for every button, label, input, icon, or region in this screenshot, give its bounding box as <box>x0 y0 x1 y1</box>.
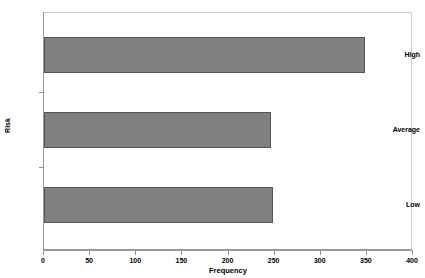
x-axis-tick <box>274 251 275 255</box>
x-axis-tick-label: 400 <box>397 257 425 264</box>
x-axis-tick <box>412 251 413 255</box>
y-axis-tick <box>39 167 44 168</box>
x-axis-tick-label: 50 <box>74 257 104 264</box>
bar-low[interactable] <box>44 187 273 223</box>
y-category-label-average: Average <box>384 126 420 133</box>
x-axis-tick-label: 250 <box>259 257 289 264</box>
x-axis-tick-label: 0 <box>28 257 58 264</box>
x-axis-tick-label: 350 <box>351 257 381 264</box>
y-axis-title: Risk <box>4 106 11 146</box>
x-axis-tick <box>228 251 229 255</box>
x-axis-title: Frequency <box>43 266 413 275</box>
x-axis-tick <box>366 251 367 255</box>
bar-average[interactable] <box>44 112 271 148</box>
x-axis-tick-label: 150 <box>166 257 196 264</box>
x-axis-tick-label: 200 <box>213 257 243 264</box>
x-axis-tick <box>89 251 90 255</box>
y-axis-tick <box>39 92 44 93</box>
x-axis-tick <box>320 251 321 255</box>
y-category-label-low: Low <box>384 201 420 208</box>
x-axis-tick-label: 300 <box>305 257 335 264</box>
x-axis-tick <box>181 251 182 255</box>
y-category-label-high: High <box>384 51 420 58</box>
x-axis-tick-label: 100 <box>120 257 150 264</box>
chart-title <box>0 0 420 4</box>
x-axis-tick <box>43 251 44 255</box>
x-axis-tick <box>135 251 136 255</box>
bar-high[interactable] <box>44 37 365 73</box>
